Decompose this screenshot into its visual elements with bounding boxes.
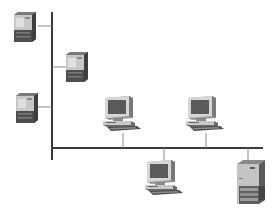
- tower-pc-icon-1: [14, 12, 36, 42]
- network-diagram: [0, 0, 280, 215]
- tower-pc-icon-3: [16, 93, 38, 123]
- tower-pc-icon-2: [66, 52, 88, 82]
- server-tower-icon: [237, 160, 265, 204]
- workstation-icon-1: [103, 96, 141, 131]
- workstation-icon-2: [186, 96, 224, 131]
- workstation-icon-3: [145, 160, 183, 195]
